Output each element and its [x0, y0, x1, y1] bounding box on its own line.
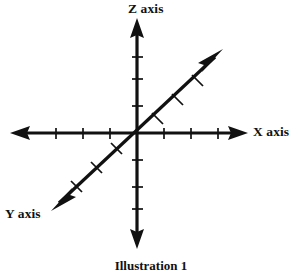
y-axis-tick [172, 94, 183, 105]
x-axis-label: X axis [253, 125, 289, 139]
y-axis-label: Y axis [5, 207, 41, 221]
x-axis-negative-arrowhead [10, 126, 30, 140]
z-axis-negative-arrowhead [130, 229, 144, 249]
figure-caption: Illustration 1 [0, 259, 302, 272]
y-axis-tick [192, 75, 203, 86]
z-axis-positive-arrowhead [130, 18, 144, 38]
z-axis-label: Z axis [128, 2, 163, 16]
illustration-figure: Z axis X axis Y axis Illustration 1 [0, 0, 302, 272]
x-axis-positive-arrowhead [228, 126, 248, 140]
y-axis-tick [152, 113, 163, 124]
